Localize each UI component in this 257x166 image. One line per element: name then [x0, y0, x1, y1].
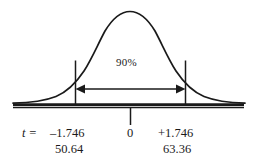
lower-critical-value-label: –1.746 [50, 127, 84, 140]
center-value-label: 0 [127, 127, 133, 140]
confidence-percentage-label: 90% [116, 57, 137, 68]
t-distribution-figure: 90% t = –1.746 0 +1.746 50.64 63.36 [0, 0, 257, 166]
t-symbol-label: t = [22, 127, 37, 140]
figure-canvas [0, 0, 257, 166]
interval-double-arrow [76, 84, 186, 93]
lower-raw-value-label: 50.64 [55, 143, 83, 156]
upper-critical-value-label: +1.746 [158, 127, 193, 140]
upper-raw-value-label: 63.36 [163, 143, 191, 156]
